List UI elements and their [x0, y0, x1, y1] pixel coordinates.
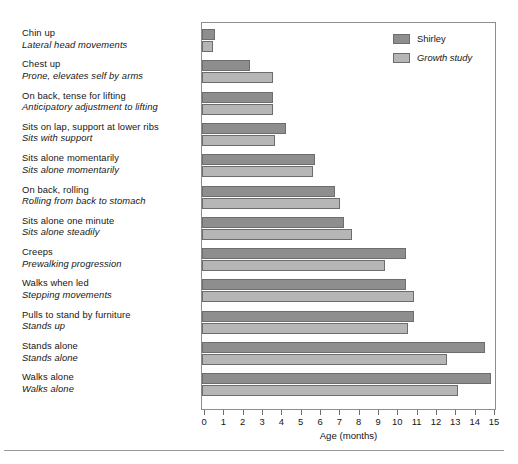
category-label: Walks when ledStepping movements	[22, 277, 198, 300]
category-label-primary: Sits on lap, support at lower ribs	[22, 121, 198, 133]
bar-shirley	[202, 311, 414, 322]
bar-growth-study	[202, 385, 458, 396]
category-label: Sits alone momentarilySits alone momenta…	[22, 152, 198, 175]
category-label-primary: On back, tense for lifting	[22, 90, 198, 102]
bar-shirley	[202, 154, 315, 165]
legend-label: Growth study	[417, 52, 472, 63]
category-label-secondary: Stepping movements	[22, 289, 198, 301]
plot-area	[202, 23, 495, 409]
category-label: Sits alone one minuteSits alone steadily	[22, 215, 198, 238]
category-label: Chin upLateral head movements	[22, 27, 198, 50]
x-axis-tick	[475, 410, 476, 415]
category-label-secondary: Stands up	[22, 320, 198, 332]
bar-shirley	[202, 29, 215, 40]
x-axis-tick	[397, 410, 398, 415]
bar-shirley	[202, 373, 491, 384]
category-label-column: Chin upLateral head movementsChest upPro…	[0, 22, 196, 410]
category-label-secondary: Walks alone	[22, 383, 198, 395]
category-label-secondary: Rolling from back to stomach	[22, 195, 198, 207]
bar-growth-study	[202, 291, 414, 302]
x-axis-tick	[436, 410, 437, 415]
x-axis-tick	[417, 410, 418, 415]
category-label-primary: Pulls to stand by furniture	[22, 309, 198, 321]
category-label-secondary: Prewalking progression	[22, 258, 198, 270]
x-axis-tick	[494, 410, 495, 415]
category-label-secondary: Sits alone momentarily	[22, 164, 198, 176]
plot-frame	[201, 22, 496, 410]
category-label: Walks aloneWalks alone	[22, 371, 198, 394]
legend-swatch-icon	[393, 53, 410, 63]
x-axis-tick	[262, 410, 263, 415]
category-label-secondary: Stands alone	[22, 352, 198, 364]
bar-growth-study	[202, 260, 385, 271]
category-label-primary: Chest up	[22, 58, 198, 70]
category-label-secondary: Sits alone steadily	[22, 226, 198, 238]
bar-growth-study	[202, 229, 352, 240]
category-label: Pulls to stand by furnitureStands up	[22, 309, 198, 332]
bar-shirley	[202, 60, 250, 71]
category-label-secondary: Prone, elevates self by arms	[22, 70, 198, 82]
x-axis-title: Age (months)	[201, 430, 496, 441]
category-label-primary: Chin up	[22, 27, 198, 39]
category-label: Sits on lap, support at lower ribsSits w…	[22, 121, 198, 144]
category-label-secondary: Sits with support	[22, 132, 198, 144]
bar-shirley	[202, 123, 286, 134]
legend: ShirleyGrowth study	[386, 24, 490, 74]
category-label: Stands aloneStands alone	[22, 340, 198, 363]
x-axis-tick	[301, 410, 302, 415]
category-label-primary: Walks alone	[22, 371, 198, 383]
bar-growth-study	[202, 198, 340, 209]
bar-growth-study	[202, 135, 275, 146]
bar-shirley	[202, 248, 406, 259]
category-label-primary: Sits alone momentarily	[22, 152, 198, 164]
bar-chart-figure: Chin upLateral head movementsChest upPro…	[0, 0, 518, 464]
category-label: Chest upProne, elevates self by arms	[22, 58, 198, 81]
category-label-primary: Sits alone one minute	[22, 215, 198, 227]
bar-shirley	[202, 342, 485, 353]
x-axis-tick	[359, 410, 360, 415]
x-axis-tick-label: 15	[483, 416, 505, 427]
bar-shirley	[202, 217, 344, 228]
bar-growth-study	[202, 323, 408, 334]
bar-growth-study	[202, 354, 447, 365]
bar-shirley	[202, 92, 273, 103]
x-axis-tick	[204, 410, 205, 415]
category-label-secondary: Lateral head movements	[22, 39, 198, 51]
bar-growth-study	[202, 72, 273, 83]
bottom-divider	[4, 450, 504, 451]
x-axis-tick	[339, 410, 340, 415]
legend-swatch-icon	[393, 34, 410, 44]
x-axis-tick	[320, 410, 321, 415]
category-label-primary: Stands alone	[22, 340, 198, 352]
legend-label: Shirley	[417, 33, 446, 44]
category-label: On back, rollingRolling from back to sto…	[22, 184, 198, 207]
legend-item[interactable]: Shirley	[393, 30, 484, 47]
x-axis-tick	[243, 410, 244, 415]
bar-shirley	[202, 279, 406, 290]
category-label-secondary: Anticipatory adjustment to lifting	[22, 101, 198, 113]
bar-growth-study	[202, 166, 313, 177]
bar-shirley	[202, 186, 335, 197]
category-label-primary: On back, rolling	[22, 184, 198, 196]
category-label-primary: Walks when led	[22, 277, 198, 289]
x-axis-tick	[223, 410, 224, 415]
x-axis-tick	[281, 410, 282, 415]
category-label-primary: Creeps	[22, 246, 198, 258]
x-axis-tick	[455, 410, 456, 415]
x-axis-tick	[378, 410, 379, 415]
category-label: CreepsPrewalking progression	[22, 246, 198, 269]
legend-item[interactable]: Growth study	[393, 49, 484, 66]
bar-growth-study	[202, 41, 213, 52]
bar-growth-study	[202, 104, 273, 115]
category-label: On back, tense for liftingAnticipatory a…	[22, 90, 198, 113]
